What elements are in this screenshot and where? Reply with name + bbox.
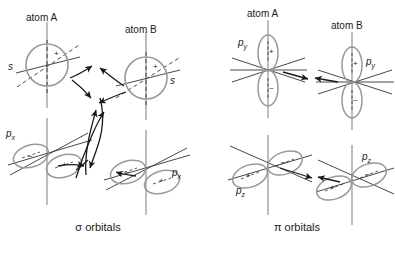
pi-pz-left-neg-sign: – [281,158,285,166]
sigma-caption: σ orbitals [0,222,196,233]
pi-pz-right-label: pz [362,152,371,164]
pi-pz-right-pos-sign: + [330,184,335,192]
pi-atom-b-py-orbital [316,32,394,130]
pi-pz-left-pos-sign: + [246,172,251,180]
pi-pz-left-sub: z [242,191,246,198]
sigma-s-right-label: s [170,76,175,86]
pi-py-left-top-sign: + [269,48,274,56]
pi-pz-right-sub: z [368,157,372,164]
pi-py-right-sub: y [372,62,376,69]
pi-caption: π orbitals [199,222,395,233]
diagram-canvas [0,0,395,255]
pi-py-right-bottom-sign: – [353,96,357,104]
pi-atom-a-label: atom A [247,9,278,19]
sigma-s-left-sign: + [54,50,59,58]
pi-py-left-sub: y [244,43,248,50]
sigma-atom-a-label: atom A [26,13,57,23]
pi-pz-right-neg-sign: – [365,170,369,178]
sigma-px-left-pos-sign: + [62,161,67,169]
sigma-s-right-sign: + [153,63,158,71]
pi-atom-a-py-orbital [230,20,307,118]
sigma-px-right-pos-sign: + [159,177,164,185]
pi-atom-b-label: atom B [331,21,363,31]
pi-pz-overlap-arrows [280,168,340,182]
sigma-overlap-arrows [70,66,126,178]
pi-atom-a-pz-orbital [228,135,312,215]
pi-py-left-label: py [238,38,247,50]
sigma-px-right-neg-sign: – [125,168,129,176]
pi-atom-b-pz-orbital [313,145,394,225]
pi-pz-left-label: pz [236,186,245,198]
pi-py-right-top-sign: + [353,60,358,68]
sigma-px-right-label: px [172,168,181,180]
sigma-px-left-neg-sign: – [28,152,32,160]
sigma-atom-a-px-orbital [8,118,92,205]
sigma-px-left-sub: x [12,134,16,141]
pi-panel-graphics [228,20,394,225]
sigma-px-left-label: px [6,129,15,141]
orbital-overlap-figure: atom A atom B s s px px + + – + – + σ or… [0,0,395,255]
sigma-px-right-sub: x [178,173,182,180]
pi-py-left-bottom-sign: – [269,84,273,92]
sigma-atom-b-label: atom B [125,25,157,35]
sigma-atom-a-s-orbital [16,22,80,108]
sigma-s-left-label: s [8,62,13,72]
pi-py-right-label: py [366,57,375,69]
sigma-panel-graphics [8,22,190,215]
